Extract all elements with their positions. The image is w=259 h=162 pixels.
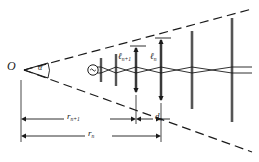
apex-vertex-lower-icon bbox=[24, 70, 48, 78]
radius-n-symbol: r bbox=[88, 128, 92, 138]
diagram-svg bbox=[0, 0, 259, 162]
dimension-spacing-n bbox=[136, 117, 170, 122]
wedge-upper-dashed-line bbox=[24, 9, 252, 70]
wedge-lower-dashed-line bbox=[24, 70, 252, 152]
apex-label: O bbox=[7, 60, 16, 72]
figure-canvas: O α ℓn+1 ℓn rn+1 dn rn bbox=[0, 0, 259, 162]
apex-vertex-icon bbox=[24, 63, 48, 70]
length-n-label: ℓn bbox=[150, 52, 157, 61]
generator-source-icon bbox=[88, 65, 98, 75]
length-np1-subscript: n+1 bbox=[122, 56, 131, 62]
length-n-subscript: n bbox=[154, 56, 157, 62]
dimension-length-n bbox=[155, 38, 171, 101]
radius-np1-label: rn+1 bbox=[67, 112, 80, 121]
dimension-length-np1 bbox=[130, 46, 146, 93]
angle-arc-icon bbox=[48, 63, 50, 78]
radius-n-label: rn bbox=[88, 129, 94, 138]
spacing-n-subscript: n bbox=[160, 116, 163, 122]
apex-angle-label: α bbox=[38, 64, 42, 72]
radius-np1-symbol: r bbox=[67, 111, 71, 121]
spacing-n-label: dn bbox=[155, 112, 162, 121]
transmission-feeder-line bbox=[96, 67, 252, 73]
spacing-n-symbol: d bbox=[155, 111, 160, 121]
length-np1-label: ℓn+1 bbox=[118, 52, 131, 61]
radius-n-subscript: n bbox=[92, 133, 95, 139]
radius-np1-subscript: n+1 bbox=[71, 116, 80, 122]
